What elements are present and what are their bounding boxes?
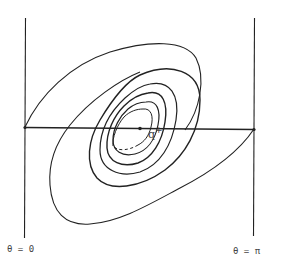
- theta-pi-label: θ = π: [233, 246, 260, 256]
- inner-contour-dashed: [113, 145, 138, 150]
- fixed-point-q: q: [148, 128, 155, 141]
- left-fixed-dot: [23, 126, 26, 129]
- outer-contour: [25, 44, 254, 225]
- fixed-point-plus: +: [155, 125, 163, 135]
- right-fixed-dot: [252, 128, 255, 131]
- right-boundary-line: [254, 18, 255, 236]
- fixed-point-label: q+: [141, 112, 163, 141]
- theta-zero-label: θ = 0: [7, 244, 34, 254]
